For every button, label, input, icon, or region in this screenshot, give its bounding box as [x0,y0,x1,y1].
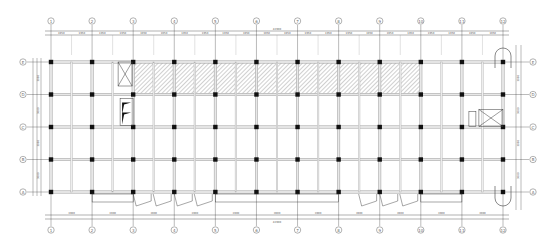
column [419,157,423,161]
angled-balcony [133,194,151,206]
column [213,190,217,194]
column [460,190,464,194]
dimension-label: 3000 [37,140,40,147]
dimension-label: 1950 [263,32,270,35]
column [419,190,423,194]
column [419,60,423,64]
column [131,157,135,161]
dimension-label: 3900 [438,212,445,215]
column [378,125,382,129]
dimension-label: 3900 [274,212,281,215]
dimension-label: 1950 [489,32,496,35]
axis-label: 1 [50,228,53,233]
column [295,190,299,194]
column [172,125,176,129]
dimension-label: 1950 [305,32,312,35]
axis-label: 2 [91,228,94,233]
core-wall [469,112,476,127]
axis-label: 9 [378,228,381,233]
axis-label: 6 [255,228,258,233]
dimension-label: 3000 [37,172,40,179]
column [336,125,340,129]
dimension-label: 1950 [79,32,86,35]
column [460,92,464,96]
dimension-label: 1950 [407,32,414,35]
secondary-beam [153,62,155,192]
column [172,190,176,194]
secondary-beam [399,62,401,192]
axis-label: 10 [418,228,424,233]
dimension-label: 1950 [58,32,65,35]
column [501,190,505,194]
dimension-label: 1950 [140,32,147,35]
axis-label: 8 [337,228,340,233]
cantilever-slab [215,194,338,202]
overall-dimension-label: 42900 [273,28,282,31]
dimension-label: 3900 [68,212,75,215]
axis-label: B [532,157,535,162]
cantilever-slab [421,194,462,202]
column [172,157,176,161]
dimension-label: 1950 [387,32,394,35]
axis-label: 3 [132,19,135,24]
column [378,190,382,194]
column [213,157,217,161]
axis-label: 7 [296,228,299,233]
dimension-label: 3000 [37,75,40,82]
column [378,60,382,64]
dimension-label: 1950 [181,32,188,35]
column [460,157,464,161]
dimension-label: 3000 [517,140,520,147]
column [90,190,94,194]
column [131,92,135,96]
column [254,190,258,194]
dimension-label: 3900 [150,212,157,215]
column [49,92,53,96]
dimension-label: 1950 [161,32,168,35]
dimension-label: 3900 [315,212,322,215]
column [90,157,94,161]
column [419,92,423,96]
dimension-label: 1950 [469,32,476,35]
column [131,190,135,194]
dimension-label: 3900 [356,212,363,215]
dimension-label: 3900 [233,212,240,215]
secondary-beam [194,62,196,192]
dimension-label: 1950 [202,32,209,35]
floor-plan-drawing: 1950195019501950195019501950195019501950… [0,0,560,249]
column [501,60,505,64]
column [254,157,258,161]
axis-label: 9 [378,19,381,24]
column [295,157,299,161]
axis-label: 11 [459,228,465,233]
column [213,125,217,129]
column [336,190,340,194]
column [336,92,340,96]
secondary-beam [358,62,360,192]
dimension-label: 3000 [517,107,520,114]
secondary-beam [317,62,319,192]
secondary-beam [441,62,443,192]
axis-label: 6 [255,19,258,24]
dimension-label: 3900 [479,212,486,215]
axis-label: A [22,190,25,195]
dimension-label: 1950 [366,32,373,35]
dimension-label: 1950 [428,32,435,35]
axis-label: C [532,125,535,130]
dimension-label: 3000 [517,75,520,82]
column [295,125,299,129]
opening-cross [118,62,132,86]
column [213,60,217,64]
axis-label: 12 [500,19,506,24]
secondary-beam [482,62,484,192]
angled-balcony [400,194,418,206]
dimension-label: 1950 [120,32,127,35]
column [49,157,53,161]
axis-label: 11 [459,19,465,24]
wall-flag [122,113,131,125]
column [172,60,176,64]
column [254,60,258,64]
column [378,92,382,96]
dimension-label: 3000 [37,107,40,114]
column [172,92,176,96]
